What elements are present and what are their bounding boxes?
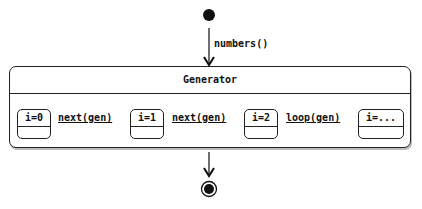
state-i1[interactable]: i=1 (130, 109, 164, 139)
composite-state-title: Generator (10, 67, 410, 94)
transition-label-1: next(gen) (172, 112, 226, 123)
state-label: i=1 (131, 110, 163, 127)
transition-label-0: next(gen) (58, 112, 112, 123)
state-i0[interactable]: i=0 (17, 109, 51, 139)
entry-transition-label: numbers() (214, 38, 268, 49)
state-label: i=... (359, 110, 403, 127)
state-label: i=0 (18, 110, 50, 127)
state-label: i=2 (245, 110, 277, 127)
transition-label-2: loop(gen) (286, 112, 340, 123)
initial-node-icon (203, 9, 215, 21)
state-i-ellipsis[interactable]: i=... (358, 109, 404, 139)
final-node-core-icon (204, 184, 214, 194)
composite-state-generator[interactable]: Generator (9, 66, 411, 148)
state-i2[interactable]: i=2 (244, 109, 278, 139)
